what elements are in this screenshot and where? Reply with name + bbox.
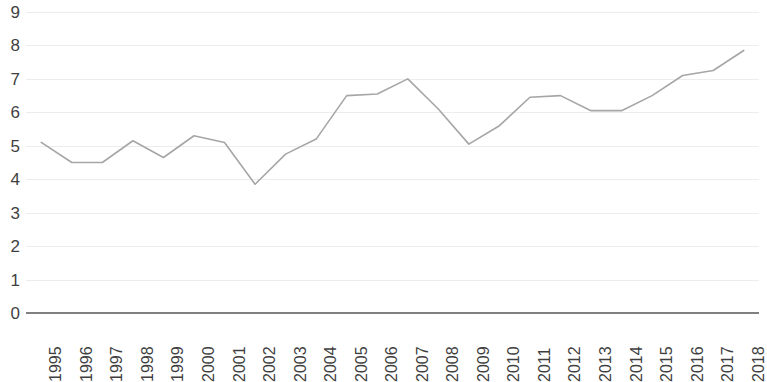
x-axis-tick-label: 2003 (293, 322, 309, 382)
x-axis-tick-label: 2005 (354, 322, 370, 382)
x-axis-tick-label: 2017 (720, 322, 736, 382)
x-axis-tick-label: 2008 (445, 322, 461, 382)
x-axis-tick-label: 2009 (476, 322, 492, 382)
x-axis-tick-label: 2011 (537, 322, 553, 382)
x-axis-tick-label: 1997 (109, 322, 125, 382)
x-axis-tick-label: 2013 (598, 322, 614, 382)
x-axis-tick-label: 2016 (690, 322, 706, 382)
x-axis-tick-label: 1995 (48, 322, 64, 382)
x-axis-tick-label: 2001 (232, 322, 248, 382)
x-axis-tick-label: 1998 (140, 322, 156, 382)
data-series-line (41, 50, 743, 184)
x-axis-tick-label: 2015 (659, 322, 675, 382)
x-axis-tick-label: 2018 (751, 322, 767, 382)
x-axis-tick-label: 2006 (384, 322, 400, 382)
x-axis-tick-label: 1996 (79, 322, 95, 382)
x-axis-tick-label: 2007 (415, 322, 431, 382)
x-axis-tick-label: 2004 (323, 322, 339, 382)
x-axis-tick-label: 2010 (506, 322, 522, 382)
x-axis-tick-label: 2000 (201, 322, 217, 382)
x-axis-tick-label: 2014 (629, 322, 645, 382)
x-axis-tick-label: 2002 (262, 322, 278, 382)
x-axis-tick-label: 2012 (567, 322, 583, 382)
x-axis-tick-label: 1999 (170, 322, 186, 382)
